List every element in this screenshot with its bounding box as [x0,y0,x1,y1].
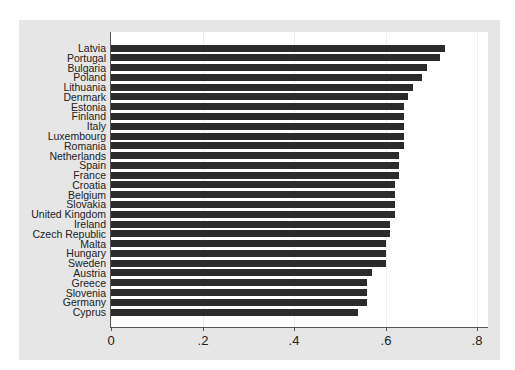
bar [111,211,395,218]
bar [111,93,408,100]
bar [111,45,445,52]
bar [111,191,395,198]
bar [111,181,395,188]
bar [111,260,386,267]
bar [111,279,367,286]
bar [111,113,404,120]
bar [111,123,404,130]
bar [111,74,422,81]
bar [111,84,413,91]
x-tick-label: .8 [462,333,492,348]
bar [111,299,367,306]
bar [111,162,399,169]
x-tick [203,327,204,331]
bar [111,152,399,159]
bar [111,289,367,296]
bar [111,201,395,208]
x-tick [111,327,112,331]
bar [111,54,440,61]
gridline [477,32,478,327]
bar [111,221,390,228]
bar [111,103,404,110]
bar [111,64,427,71]
x-tick-label: .6 [371,333,401,348]
bar [111,230,390,237]
bar [111,142,404,149]
x-tick [386,327,387,331]
x-tick [294,327,295,331]
bar [111,269,372,276]
x-tick-label: 0 [96,333,126,348]
x-tick-label: .2 [188,333,218,348]
x-tick [477,327,478,331]
bar [111,250,386,257]
x-axis-line [110,327,488,328]
x-tick-label: .4 [279,333,309,348]
bar [111,133,404,140]
category-label: Cyprus [73,307,106,317]
bar [111,172,399,179]
bar [111,309,358,316]
bar [111,240,386,247]
y-axis-line [110,32,111,328]
